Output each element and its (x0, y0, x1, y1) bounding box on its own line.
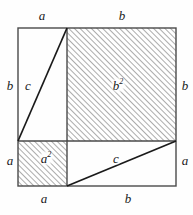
label-top-b: b (119, 9, 126, 22)
label-a-squared: a2 (38, 150, 55, 167)
label-a-squared-exponent: 2 (47, 150, 51, 159)
figure-canvas (0, 0, 193, 215)
label-b-squared-exponent: 2 (119, 77, 123, 86)
label-upper-c: c (25, 79, 31, 92)
label-right-a: a (182, 154, 189, 167)
label-top-a: a (39, 9, 46, 22)
label-lower-c: c (110, 151, 122, 166)
pythagorean-proof-figure: a b b a b a a b c c b2 a2 (0, 0, 193, 215)
label-b-squared: b2 (110, 77, 127, 94)
label-bottom-b: b (125, 192, 132, 205)
label-left-b: b (7, 79, 14, 92)
label-bottom-a: a (41, 192, 48, 205)
label-left-a: a (7, 154, 14, 167)
label-right-b: b (182, 79, 189, 92)
